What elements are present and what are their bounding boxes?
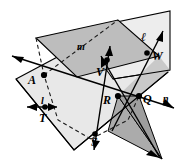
point-Q: [136, 93, 142, 99]
label-point-V: V: [96, 66, 104, 78]
geometry-figure: A T S R Q V W ℓ m n l: [0, 0, 183, 166]
label-point-Q: Q: [143, 93, 152, 105]
point-V: [104, 57, 110, 63]
line-n-arrow-left: [12, 56, 24, 63]
label-line-n: n: [163, 94, 169, 104]
label-point-T: T: [39, 112, 46, 124]
label-line-l-small: l: [41, 96, 44, 106]
label-point-S: S: [91, 136, 98, 148]
point-R: [115, 93, 121, 99]
point-W: [144, 50, 150, 56]
line-l-arrow-left: [27, 103, 37, 111]
label-point-A: A: [28, 74, 36, 86]
label-line-m: m: [77, 42, 85, 52]
label-point-W: W: [152, 50, 163, 62]
point-A: [41, 72, 47, 78]
label-line-ell: ℓ: [141, 31, 146, 43]
label-point-R: R: [103, 94, 111, 106]
